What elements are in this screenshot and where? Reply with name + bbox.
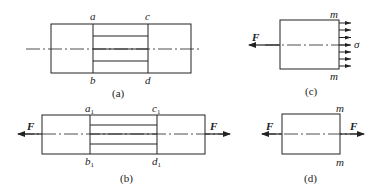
label-a: a (90, 10, 96, 22)
section-label-top: m (336, 102, 344, 114)
caption-b: (b) (120, 172, 133, 185)
label-d: d (145, 74, 151, 86)
diagram-svg: a c b d (a) F F a1 c1 b1 d1 (b) F (0, 0, 378, 196)
force-label-right: F (349, 120, 358, 132)
stress-label: σ (354, 38, 360, 50)
force-label: F (251, 31, 260, 43)
label-d1: d1 (152, 155, 162, 169)
figure-c: F σ m m (c) (249, 8, 360, 98)
figure-a: a c b d (a) (26, 10, 200, 100)
label-c: c (145, 10, 150, 22)
segment-outline (280, 20, 339, 69)
section-label-top: m (330, 8, 338, 20)
figure-d: F F m m (d) (262, 102, 364, 185)
label-c1: c1 (152, 102, 161, 116)
label-b: b (90, 74, 96, 86)
caption-a: (a) (112, 87, 125, 100)
force-label-left: F (265, 120, 274, 132)
caption-c: (c) (305, 85, 318, 98)
caption-d: (d) (304, 172, 317, 185)
label-a1: a1 (85, 102, 95, 116)
stress-arrows (339, 23, 351, 66)
label-b1: b1 (85, 155, 95, 169)
force-label-right: F (209, 120, 218, 132)
diagram-canvas: a c b d (a) F F a1 c1 b1 d1 (b) F (0, 0, 378, 196)
section-label-bottom: m (330, 70, 338, 82)
figure-b: F F a1 c1 b1 d1 (b) (18, 102, 230, 185)
section-label-bottom: m (336, 156, 344, 168)
force-label-left: F (26, 120, 35, 132)
